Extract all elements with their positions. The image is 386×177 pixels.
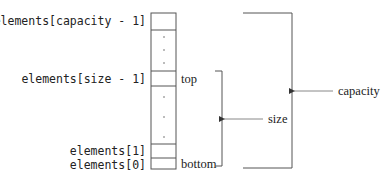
- label-elements-size-minus-1: elements[size - 1]: [21, 72, 146, 86]
- ellipsis-upper: [163, 36, 165, 64]
- label-bottom: bottom: [181, 157, 217, 171]
- label-elements-0: elements[0]: [70, 158, 146, 172]
- label-size: size: [268, 112, 288, 126]
- size-bracket: [215, 71, 222, 166]
- ellipsis-lower: [163, 96, 165, 138]
- label-capacity: capacity: [338, 84, 380, 98]
- capacity-bracket: [243, 13, 292, 168]
- stack-array-diagram: elements[capacity - 1] elements[size - 1…: [0, 0, 386, 177]
- label-elements-capacity-minus-1: elements[capacity - 1]: [0, 14, 146, 28]
- label-top: top: [181, 72, 197, 86]
- label-elements-1: elements[1]: [70, 144, 146, 158]
